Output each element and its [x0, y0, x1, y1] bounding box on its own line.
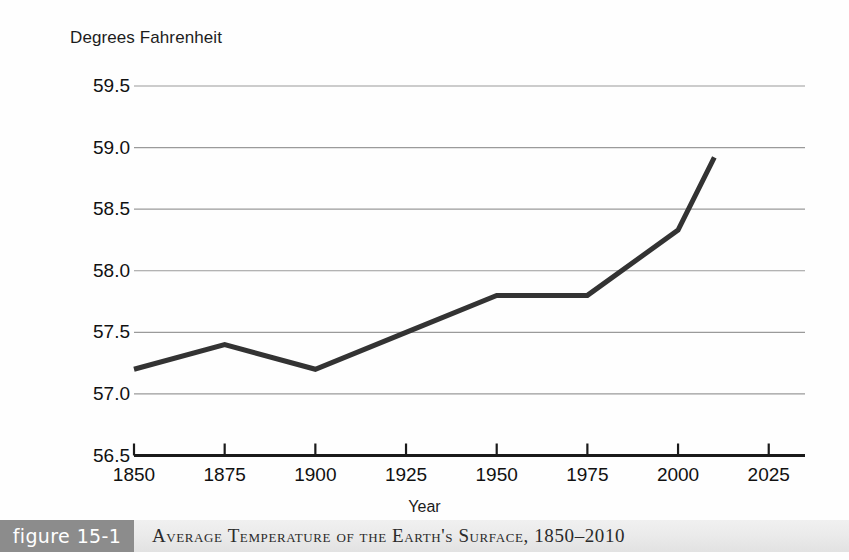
x-axis-title: Year: [0, 498, 849, 516]
figure-caption-bar: figure 15-1 Average Temperature of the E…: [0, 520, 849, 552]
x-axis-tick-label: 1975: [542, 464, 632, 486]
x-axis-tick-label: 1950: [452, 464, 542, 486]
x-axis-tick-label: 2025: [724, 464, 814, 486]
figure-number-label: figure 15-1: [0, 520, 134, 552]
figure-container: Degrees Fahrenheit 56.557.057.558.058.55…: [0, 0, 849, 560]
x-axis-tick-labels: 18501875190019251950197520002025: [0, 0, 849, 560]
x-axis-tick-label: 2000: [633, 464, 723, 486]
x-axis-tick-label: 1900: [270, 464, 360, 486]
x-axis-tick-label: 1925: [361, 464, 451, 486]
figure-caption-text: Average Temperature of the Earth's Surfa…: [134, 520, 849, 552]
x-axis-tick-label: 1875: [180, 464, 270, 486]
x-axis-tick-label: 1850: [89, 464, 179, 486]
